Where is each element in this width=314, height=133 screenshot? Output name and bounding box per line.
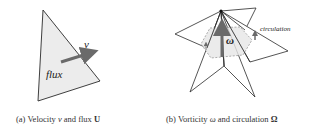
caption-b: (b) Vorticity ω and circulation Ω: [166, 114, 277, 124]
panel-b-diagram: [175, 8, 288, 97]
vorticity-label: ω: [226, 34, 234, 46]
caption-a-prefix: (a): [16, 114, 25, 124]
caption-a-text-2: and flux: [64, 114, 92, 124]
caption-a-symbol-v: v: [58, 114, 62, 124]
caption-a-text-1: Velocity: [27, 114, 55, 124]
caption-a-symbol-u: U: [94, 114, 100, 124]
flux-label: flux: [46, 68, 63, 80]
panel-a-diagram: [38, 10, 100, 101]
triangle-face: [38, 10, 100, 101]
velocity-label: v: [84, 38, 89, 50]
center-vertex: [219, 9, 222, 12]
caption-a: (a) Velocity v and flux U: [16, 114, 100, 124]
caption-b-text-1: Vorticity: [178, 114, 208, 124]
caption-b-symbol-omega: ω: [210, 114, 216, 124]
circulation-label: circulation: [260, 25, 291, 33]
caption-b-text-2: and circulation: [218, 114, 269, 124]
caption-b-prefix: (b): [166, 114, 176, 124]
caption-b-symbol-capital-omega: Ω: [271, 114, 278, 124]
